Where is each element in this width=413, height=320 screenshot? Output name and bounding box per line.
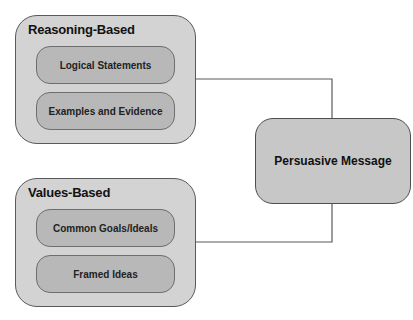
examples-evidence-node: Examples and Evidence [36, 92, 175, 130]
group-title: Reasoning-Based [28, 22, 135, 37]
common-goals-node: Common Goals/Ideals [36, 209, 175, 247]
persuasive-message-node: Persuasive Message [255, 118, 411, 204]
framed-ideas-node: Framed Ideas [36, 255, 175, 293]
group-title: Values-Based [28, 185, 110, 200]
values-based-group: Values-Based Common Goals/Ideals Framed … [15, 178, 196, 307]
reasoning-based-group: Reasoning-Based Logical Statements Examp… [15, 15, 196, 144]
logical-statements-node: Logical Statements [36, 46, 175, 84]
